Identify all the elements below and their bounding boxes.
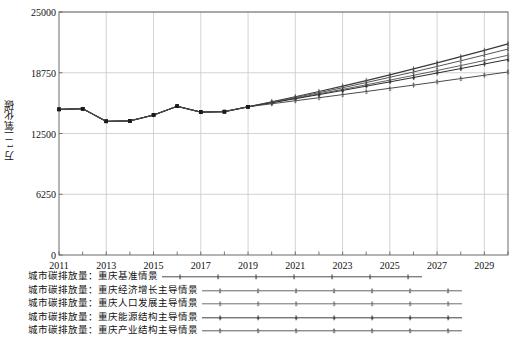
data-point-marker xyxy=(81,107,84,110)
legend-item: 城市碳排放量：重庆能源结构主导情景4444444 xyxy=(28,311,498,325)
data-point-marker xyxy=(128,119,131,122)
plot-area: 1111111111122222222222333333333334444444… xyxy=(0,0,515,270)
data-point-marker xyxy=(246,105,249,108)
legend-label: 城市碳排放量：重庆人口发展主导情景 xyxy=(28,297,198,311)
data-point-marker xyxy=(57,108,60,111)
legend-label: 城市碳排放量：重庆能源结构主导情景 xyxy=(28,311,198,325)
data-point-marker xyxy=(152,113,155,116)
series-line xyxy=(59,72,508,121)
legend-item: 城市碳排放量：重庆基准情景1111111 xyxy=(28,270,498,284)
series-line xyxy=(59,44,508,121)
data-point-marker xyxy=(105,120,108,123)
legend-label: 城市碳排放量：重庆经济增长主导情景 xyxy=(28,284,198,298)
legend-line-sample: 5555555 xyxy=(202,324,498,338)
chart-legend: 城市碳排放量：重庆基准情景1111111城市碳排放量：重庆经济增长主导情景222… xyxy=(28,270,498,338)
legend-label: 城市碳排放量：重庆产业结构主导情景 xyxy=(28,324,198,338)
legend-line-sample: 1111111 xyxy=(162,270,498,284)
data-point-marker xyxy=(175,105,178,108)
legend-line-sample: 4444444 xyxy=(202,311,498,325)
legend-line-sample: 3333333 xyxy=(202,297,498,311)
series-line xyxy=(59,49,508,121)
legend-item: 城市碳排放量：重庆人口发展主导情景3333333 xyxy=(28,297,498,311)
legend-item: 城市碳排放量：重庆产业结构主导情景5555555 xyxy=(28,324,498,338)
series-line xyxy=(59,59,508,121)
data-point-marker xyxy=(199,110,202,113)
legend-line-sample: 2222222 xyxy=(202,284,498,298)
chart-figure: 万 t 二氧化碳 06250125001875025000 1111111111… xyxy=(0,0,515,343)
legend-item: 城市碳排放量：重庆经济增长主导情景2222222 xyxy=(28,284,498,298)
data-point-marker xyxy=(223,110,226,113)
legend-label: 城市碳排放量：重庆基准情景 xyxy=(28,270,158,284)
